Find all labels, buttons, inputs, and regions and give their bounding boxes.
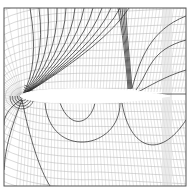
airfoil-flow-figure <box>0 0 193 188</box>
